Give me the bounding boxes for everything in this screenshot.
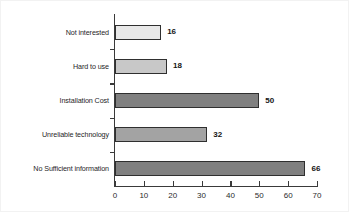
y-axis-tick <box>110 49 114 50</box>
x-axis-tick-label: 20 <box>168 191 177 200</box>
y-axis-tick <box>110 152 114 153</box>
x-axis-tick-label: 50 <box>255 191 264 200</box>
x-axis-tick <box>259 181 260 186</box>
x-axis-line <box>114 186 318 187</box>
bar <box>115 161 305 176</box>
x-axis-tick <box>288 181 289 186</box>
category-label: Installation Cost <box>60 96 109 105</box>
x-axis-tick <box>317 181 318 186</box>
bar <box>115 59 167 74</box>
bar-chart-figure: 010203040506070 Not interestedHard to us… <box>0 0 349 212</box>
x-axis-tick <box>115 181 116 186</box>
x-axis-tick <box>173 181 174 186</box>
category-label: Hard to use <box>73 62 109 71</box>
category-label: Not interested <box>66 28 109 37</box>
x-axis-tick-label: 10 <box>139 191 148 200</box>
x-axis-tick <box>144 181 145 186</box>
x-axis-tick <box>230 181 231 186</box>
x-axis-tick-label: 70 <box>313 191 322 200</box>
x-axis-tick-label: 0 <box>113 191 117 200</box>
category-label: Unreliable technology <box>42 130 109 139</box>
bar-value-label: 32 <box>213 130 222 139</box>
y-axis-tick <box>110 83 114 84</box>
y-axis-tick <box>110 118 114 119</box>
category-label: No Sufficient information <box>33 164 109 173</box>
bar-value-label: 16 <box>167 27 176 36</box>
bar <box>115 127 207 142</box>
bar <box>115 93 259 108</box>
x-axis-tick <box>202 181 203 186</box>
bar-value-label: 66 <box>311 164 320 173</box>
x-axis-tick-label: 30 <box>197 191 206 200</box>
bar <box>115 25 161 40</box>
x-axis-tick-label: 60 <box>284 191 293 200</box>
bar-value-label: 18 <box>173 61 182 70</box>
bar-value-label: 50 <box>265 96 274 105</box>
x-axis-tick-label: 40 <box>226 191 235 200</box>
